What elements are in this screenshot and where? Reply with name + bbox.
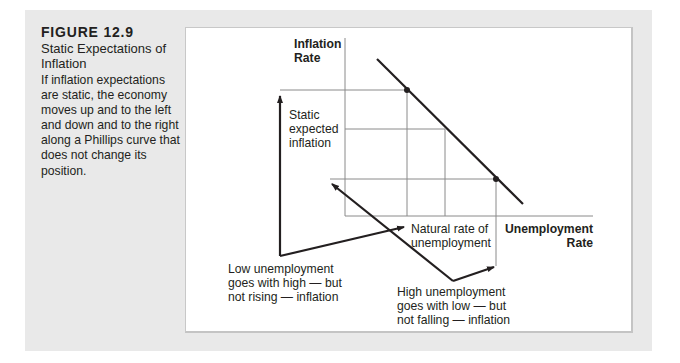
point-low-inflation bbox=[493, 176, 499, 182]
low-unemployment-note: Low unemployment goes with high — but no… bbox=[228, 262, 342, 304]
label-line: not rising — inflation bbox=[228, 290, 342, 304]
x-axis-label-line: Rate bbox=[490, 236, 593, 250]
phillips-curve bbox=[377, 59, 523, 204]
arrow-low-unemployment bbox=[280, 227, 404, 256]
label-line: expected bbox=[289, 122, 338, 136]
point-high-inflation bbox=[404, 87, 410, 93]
label-line: Low unemployment bbox=[228, 262, 342, 276]
label-line: goes with high — but bbox=[228, 276, 342, 290]
y-axis-label-line: Inflation bbox=[294, 37, 341, 51]
x-axis-label-line: Unemployment bbox=[490, 222, 593, 236]
arrow-high-unemployment bbox=[453, 267, 494, 281]
label-line: inflation bbox=[289, 136, 338, 150]
label-line: not falling — inflation bbox=[397, 313, 510, 327]
high-unemployment-note: High unemployment goes with low — but no… bbox=[397, 285, 510, 327]
label-line: High unemployment bbox=[397, 285, 510, 299]
label-line: unemployment bbox=[411, 236, 491, 250]
label-line: goes with low — but bbox=[397, 299, 510, 313]
label-line: Static bbox=[289, 108, 338, 122]
natural-rate-label: Natural rate of unemployment bbox=[411, 222, 491, 250]
y-axis-label-line: Rate bbox=[294, 51, 341, 65]
x-axis-label: Unemployment Rate bbox=[490, 222, 593, 250]
label-line: Natural rate of bbox=[411, 222, 491, 236]
expected-inflation-label: Static expected inflation bbox=[289, 108, 338, 150]
y-axis-label: Inflation Rate bbox=[294, 37, 341, 65]
